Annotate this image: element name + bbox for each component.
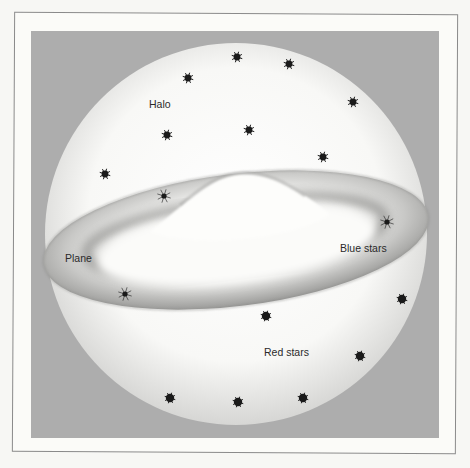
halo-label: Halo bbox=[149, 98, 171, 110]
blue-stars-label: Blue stars bbox=[340, 242, 387, 254]
galaxy-diagram bbox=[0, 0, 470, 468]
red-stars-label: Red stars bbox=[264, 346, 309, 358]
plane-label: Plane bbox=[65, 252, 92, 264]
